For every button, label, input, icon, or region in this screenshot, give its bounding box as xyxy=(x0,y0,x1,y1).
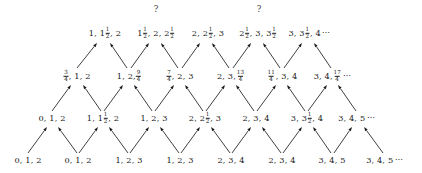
lattice-arrow xyxy=(155,85,174,111)
lattice-arrow xyxy=(211,127,230,153)
triple-node: 3, 4, 5⋯ xyxy=(366,156,404,164)
lattice-arrow xyxy=(338,85,356,111)
ellipsis: ⋯ xyxy=(322,29,331,37)
fraction: 34 xyxy=(64,70,69,82)
lattice-arrow xyxy=(284,43,302,68)
triple-node: 0, 1, 2 xyxy=(14,156,41,164)
triple-node: 212, 3, 312 xyxy=(239,27,277,39)
triple-node: 34, 1, 2 xyxy=(63,70,90,82)
triple-node: 114, 3, 4 xyxy=(267,70,298,82)
fraction: 12 xyxy=(208,27,213,39)
fraction: 12 xyxy=(307,112,312,124)
question-mark: ? xyxy=(154,5,159,14)
triple-node: 3, 312, 4 xyxy=(291,112,323,124)
fraction: 74 xyxy=(167,70,172,82)
triple-node: 1, 2, 94 xyxy=(117,70,141,82)
lattice-arrow xyxy=(160,127,179,153)
fraction: 174 xyxy=(333,70,341,82)
triple-node: 3, 312, 4⋯ xyxy=(288,27,331,39)
node-text: 3, 4, 5 xyxy=(366,156,393,164)
node-text: 3, 3 xyxy=(291,114,307,122)
node-text: 0, 1, 2 xyxy=(14,156,41,164)
triple-node: 112, 2, 212 xyxy=(137,27,175,39)
node-text: 1, 2, 3 xyxy=(166,156,193,164)
node-text: , 2 xyxy=(108,114,119,122)
fraction: 94 xyxy=(136,70,141,82)
lattice-arrow xyxy=(233,43,251,68)
node-text: , 3 xyxy=(213,29,224,37)
lattice-arrow xyxy=(334,127,352,153)
triple-node: 1, 112, 2 xyxy=(87,112,119,124)
node-text: , 1, 2 xyxy=(69,72,91,80)
triple-node: 74, 2, 3 xyxy=(166,70,193,82)
node-text: 2, 3, 4 xyxy=(242,114,269,122)
node-text: 3, 4, xyxy=(314,72,333,80)
node-text: , 4 xyxy=(310,29,321,37)
fraction: 12 xyxy=(170,27,175,39)
node-text: , 3 xyxy=(210,114,221,122)
lattice-arrow xyxy=(58,127,77,153)
lattice-arrow xyxy=(262,127,281,153)
lattice-arrow xyxy=(263,43,280,68)
triple-node: 0, 1, 2 xyxy=(64,156,91,164)
triple-node: 1, 112, 2 xyxy=(89,27,121,39)
node-text: 2, 3, 4 xyxy=(268,156,295,164)
fraction: 12 xyxy=(245,27,250,39)
node-text: , 3, 3 xyxy=(250,29,272,37)
lattice-arrow xyxy=(212,43,229,68)
lattice-arrow xyxy=(236,85,254,111)
fraction: 12 xyxy=(272,27,277,39)
lattice-arrow xyxy=(79,127,98,153)
question-mark: ? xyxy=(257,5,262,14)
lattice-arrow xyxy=(182,43,200,68)
node-text: 2, 3, 4 xyxy=(217,156,244,164)
node-text: 1, 2, 3 xyxy=(115,156,142,164)
fraction: 12 xyxy=(105,27,110,39)
triple-node: 0, 1, 2 xyxy=(38,114,65,122)
lattice-arrow xyxy=(28,127,47,153)
triple-node: 3, 4, 5 xyxy=(318,156,345,164)
triple-node: 2, 3, 134 xyxy=(217,70,245,82)
triple-node: 3, 4, 5⋯ xyxy=(338,114,376,122)
lattice-arrow xyxy=(131,43,149,68)
fraction: 114 xyxy=(267,70,275,82)
triple-node: 3, 4, 174⋯ xyxy=(314,70,353,82)
lattice-arrow xyxy=(181,127,200,153)
node-text: 2 xyxy=(239,29,244,37)
node-text: 1, 2, 3 xyxy=(140,114,167,122)
node-text: 1, 1 xyxy=(89,29,105,37)
lattice-arrow xyxy=(185,85,203,111)
lattice-arrow xyxy=(364,127,383,153)
fraction: 12 xyxy=(205,112,210,124)
triple-node: 2, 212, 3 xyxy=(189,112,221,124)
node-text: , 4 xyxy=(312,114,323,122)
lattice-arrow xyxy=(257,85,276,111)
triple-node: 1, 2, 3 xyxy=(166,156,193,164)
node-text: 3, 4, 5 xyxy=(338,114,365,122)
lattice-diagram: 1, 112, 2112, 2, 2122, 212, 3212, 3, 312… xyxy=(0,0,422,173)
node-text: 1, 1 xyxy=(87,114,103,122)
node-text: 2, 2 xyxy=(192,29,208,37)
lattice-arrow xyxy=(52,85,71,111)
triple-node: 1, 2, 3 xyxy=(115,156,142,164)
lattice-arrow xyxy=(161,43,178,68)
lattice-arrow xyxy=(109,127,128,153)
lattice-arrow xyxy=(83,85,101,111)
ellipsis: ⋯ xyxy=(367,114,376,122)
node-text: 0, 1, 2 xyxy=(64,156,91,164)
triple-node: 2, 3, 4 xyxy=(217,156,244,164)
fraction: 134 xyxy=(236,70,244,82)
lattice-arrow xyxy=(314,43,331,68)
fraction: 12 xyxy=(305,27,310,39)
node-text: , 2 xyxy=(110,29,121,37)
triple-node: 2, 212, 3 xyxy=(192,27,224,39)
node-text: 2, 3, xyxy=(217,72,236,80)
node-text: , 2, 3 xyxy=(172,72,194,80)
triple-node: 2, 3, 4 xyxy=(268,156,295,164)
node-text: 3, 3 xyxy=(288,29,304,37)
ellipsis: ⋯ xyxy=(343,72,352,80)
fraction: 12 xyxy=(143,27,148,39)
node-text: 1 xyxy=(137,29,142,37)
lattice-arrow xyxy=(308,85,327,111)
node-text: 2, 2 xyxy=(189,114,205,122)
